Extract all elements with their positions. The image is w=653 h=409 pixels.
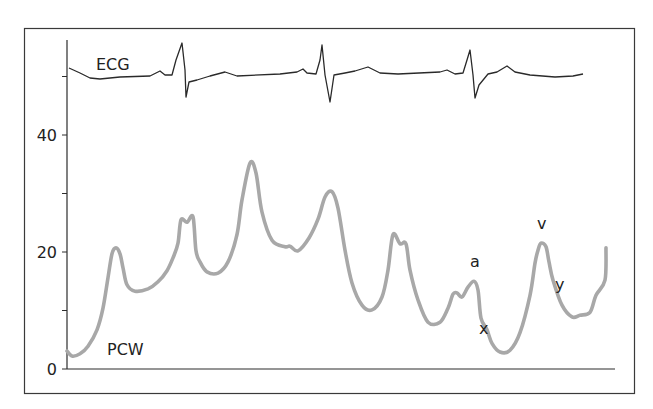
annotation-x: x [479,319,488,338]
annotation-y: y [555,275,564,294]
ecg-series-label: ECG [96,55,130,74]
y-tick-label-20: 20 [37,243,57,262]
y-ticks: 02040 [37,77,67,380]
annotation-v: v [537,214,546,233]
ecg-trace [69,43,583,102]
pcw-trace [67,162,606,357]
annotation-a: a [470,252,480,271]
y-tick-label-0: 0 [47,360,57,379]
pcw-series-label: PCW [107,340,144,359]
chart: 02040 ECG PCW axvy [0,0,653,409]
y-tick-label-40: 40 [37,126,57,145]
outer-frame [25,29,635,394]
